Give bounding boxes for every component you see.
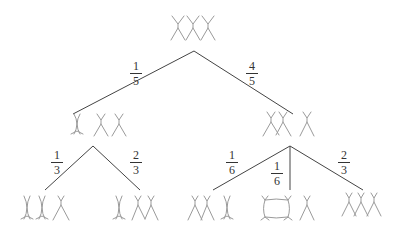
fraction-denominator: 3 [51,163,63,176]
left-node-chromosomes [71,114,126,136]
fraction-denominator: 5 [246,74,258,87]
fraction-numerator: 1 [226,149,238,163]
fraction-denominator: 3 [338,163,350,176]
fraction-numerator: 4 [246,60,258,74]
prob-root-left: 1 5 [130,60,142,87]
prob-left-leaf2: 2 3 [130,149,142,176]
leaf-3-chromosomes [188,196,233,220]
fraction-denominator: 6 [226,163,238,176]
edge-right-leaf3 [290,146,363,190]
prob-left-leaf1: 1 3 [51,149,63,176]
fraction-numerator: 2 [130,149,142,163]
fraction-numerator: 1 [271,160,283,174]
prob-right-leaf1: 1 6 [226,149,238,176]
leaf-5-chromosomes [342,193,381,216]
prob-right-leaf3: 2 3 [338,149,350,176]
fraction-numerator: 1 [51,149,63,163]
fraction-numerator: 2 [338,149,350,163]
fraction-denominator: 3 [130,163,142,176]
leaf-2-chromosomes [113,196,158,220]
edge-root-right [194,51,293,114]
fraction-denominator: 5 [130,74,142,87]
prob-root-right: 4 5 [246,60,258,87]
fraction-numerator: 1 [130,60,142,74]
prob-right-leaf2: 1 6 [271,160,283,187]
leaf-4-chromosomes [261,196,314,220]
tree-edges [45,51,363,190]
leaf-1-chromosomes [21,196,69,220]
fraction-denominator: 6 [271,174,283,187]
probability-tree [0,0,402,234]
root-node-chromosomes [171,16,215,40]
right-node-chromosomes [263,112,314,136]
